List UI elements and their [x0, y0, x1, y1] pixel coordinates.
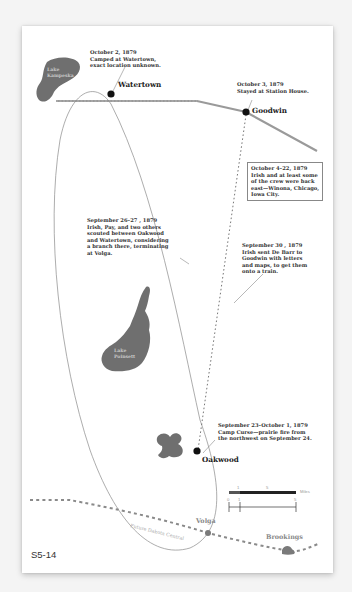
note-debarr-sept30: September 30 , 1879 Irish sent De Barr t…	[242, 242, 307, 275]
figure-label: S5-14	[31, 549, 56, 560]
goodwin-dot[interactable]	[242, 108, 249, 115]
note-scouting-sept26: September 26–27 , 1879 Irish, Pay, and t…	[87, 217, 169, 257]
town-label-watertown[interactable]: Watertown	[118, 80, 161, 89]
future-dakota-central-road	[30, 500, 318, 551]
town-label-goodwin[interactable]: Goodwin	[252, 106, 287, 115]
lake-kampeska-label: Lake Kampeska	[47, 67, 74, 78]
town-label-brookings[interactable]: Brookings	[266, 533, 303, 541]
scale-bottom-tick-0: 0	[227, 497, 229, 502]
scale-top-tick-5: 5	[266, 485, 268, 490]
oakwood-lake-shape	[157, 433, 183, 458]
scale-bottom-tick-1: 1	[238, 497, 240, 502]
scale-top-tick-1: 1	[237, 485, 239, 490]
brookings-blob[interactable]	[282, 546, 295, 555]
scale-bottom-tick-5: 5	[294, 497, 296, 502]
lake-kampeska-shape	[36, 58, 80, 102]
note-camp-curse: September 23–October 1, 1879 Camp Curse—…	[218, 422, 312, 442]
volga-dot[interactable]	[205, 530, 211, 536]
note-goodwin-oct3: October 3, 1879 Stayed at Station House.	[237, 81, 309, 94]
watertown-dot[interactable]	[107, 90, 114, 97]
town-label-oakwood[interactable]: Oakwood	[202, 455, 239, 464]
note-watertown-oct2: October 2, 1879 Camped at Watertown, exa…	[90, 49, 161, 69]
debarr-dotted-route	[198, 115, 246, 450]
lake-poinsett-label: Lake Poinsett	[114, 348, 135, 359]
scale-unit-label: Miles	[300, 489, 310, 494]
note-back-east-box: October 4–22, 1879 Irish and at least so…	[247, 162, 323, 201]
oakwood-dot[interactable]	[193, 447, 200, 454]
town-label-volga[interactable]: Volga	[196, 517, 216, 525]
